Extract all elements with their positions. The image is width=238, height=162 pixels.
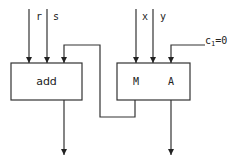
input-carry: c1=0 [171,35,227,63]
circuit-diagram: add M A r s x y c1=0 [0,0,238,162]
add-block: add [11,63,82,100]
input-s: s [47,9,59,63]
input-r: r [29,9,42,63]
input-y: y [153,9,166,63]
y-label: y [160,11,166,22]
svg-text:c1=0: c1=0 [205,35,227,48]
add-label: add [36,75,57,88]
r-label: r [36,11,42,22]
x-label: x [142,11,148,22]
carry-value: =0 [215,35,227,46]
multiply-accumulate-block: M A [117,63,190,100]
s-label: s [53,11,59,22]
a-label: A [168,76,174,87]
input-x: x [136,9,148,63]
m-label: M [133,76,139,87]
